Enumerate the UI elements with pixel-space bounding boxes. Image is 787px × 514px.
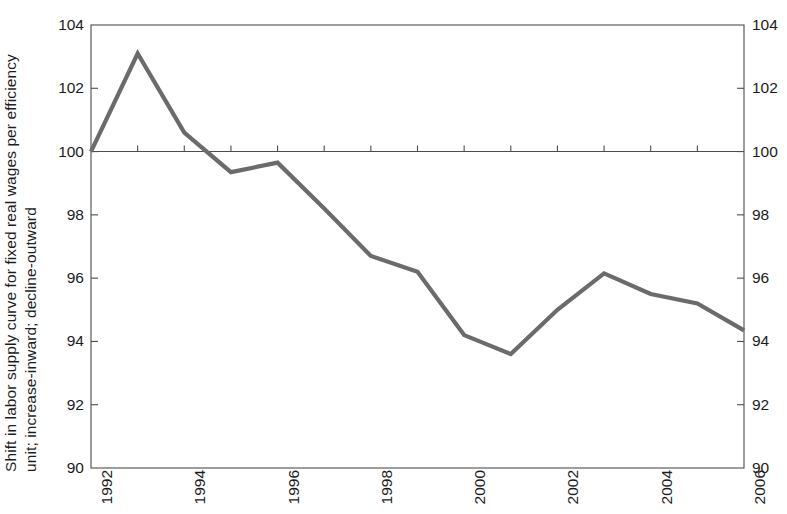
- y-axis-title-line-1: Shift in labor supply curve for fixed re…: [2, 54, 20, 472]
- data-series-line: [91, 53, 744, 354]
- y-tick-label-right-92: 92: [752, 397, 787, 413]
- plot-frame: [91, 25, 744, 468]
- x-tick-label-2000: 2000: [471, 470, 489, 504]
- x-tick-label-2002: 2002: [564, 470, 582, 504]
- y-tick-label-left-96: 96: [48, 270, 84, 286]
- y-tick-label-right-98: 98: [752, 207, 787, 223]
- x-tick-label-1996: 1996: [285, 470, 303, 504]
- y-axis-tick-labels-right: 1041021009896949290: [752, 0, 787, 514]
- x-tick-label-1998: 1998: [378, 470, 396, 504]
- y-tick-label-right-96: 96: [752, 270, 787, 286]
- y-tick-label-left-104: 104: [48, 17, 84, 33]
- x-tick-label-2006: 2006: [751, 470, 769, 504]
- y-tick-label-right-94: 94: [752, 333, 787, 349]
- plot-area: [0, 0, 787, 514]
- y-tick-label-left-98: 98: [48, 207, 84, 223]
- y-axis-title: Shift in labor supply curve for fixed re…: [0, 0, 52, 480]
- y-tick-label-left-90: 90: [48, 460, 84, 476]
- y-tick-label-right-102: 102: [752, 80, 787, 96]
- x-tick-label-1992: 1992: [98, 470, 116, 504]
- line-chart-figure: Shift in labor supply curve for fixed re…: [0, 0, 787, 514]
- y-tick-label-left-94: 94: [48, 333, 84, 349]
- y-axis-tick-labels-left: 1041021009896949290: [48, 0, 84, 514]
- x-tick-label-2004: 2004: [658, 470, 676, 504]
- y-tick-label-right-104: 104: [752, 17, 787, 33]
- y-tick-label-left-100: 100: [48, 144, 84, 160]
- y-tick-label-right-100: 100: [752, 144, 787, 160]
- x-tick-label-1994: 1994: [191, 470, 209, 504]
- y-axis-title-line-2: unit; increase-inward; decline-outward: [22, 207, 40, 472]
- y-tick-label-left-102: 102: [48, 80, 84, 96]
- y-tick-label-left-92: 92: [48, 397, 84, 413]
